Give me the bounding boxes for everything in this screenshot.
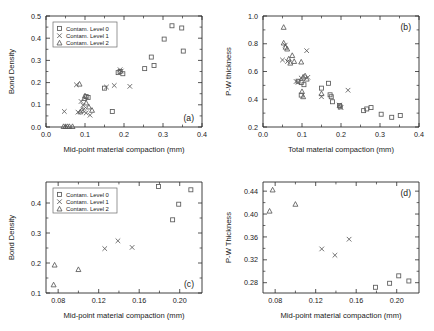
- x-tick-label: 0.0: [258, 130, 268, 139]
- data-point-open-triangle: [51, 282, 56, 287]
- y-axis-ticks: 0.20.40.60.81.0: [248, 12, 419, 132]
- series-1: [319, 237, 351, 258]
- data-point-open-square: [156, 185, 160, 189]
- x-tick-label: 0.16: [349, 296, 363, 305]
- data-point-open-square: [143, 67, 147, 71]
- y-axis-title: P-W Thickness: [224, 212, 233, 263]
- data-point-open-triangle: [84, 100, 89, 105]
- x-tick-label: 0.20: [390, 296, 404, 305]
- data-point-open-square: [149, 55, 153, 59]
- series-2: [61, 81, 94, 128]
- data-point-open-square: [171, 218, 175, 222]
- data-point-open-square: [181, 49, 185, 53]
- y-tick-label: 0.3: [31, 56, 41, 65]
- axes-frame: [263, 182, 419, 293]
- x-tick-label: 0.1: [297, 130, 307, 139]
- x-axis-ticks: 0.080.120.160.20: [268, 182, 404, 305]
- data-point-cross-x: [346, 88, 351, 93]
- panel-c: 0.080.120.160.200.10.20.30.4Mid-point ma…: [0, 166, 217, 331]
- data-point-open-square: [320, 86, 324, 90]
- data-point-open-square: [58, 26, 62, 30]
- x-tick-label: 0.4: [414, 130, 424, 139]
- data-point-open-triangle: [319, 91, 324, 96]
- plot-c: 0.080.120.160.200.10.20.30.4Mid-point ma…: [0, 166, 217, 331]
- data-point-cross-x: [57, 199, 62, 204]
- data-point-cross-x: [304, 48, 309, 53]
- x-tick-label: 0.08: [268, 296, 282, 305]
- panel-d: 0.080.120.160.200.280.320.360.400.44Mid-…: [217, 166, 434, 331]
- y-tick-label: 0.44: [244, 187, 258, 196]
- legend: Contam. Level 0Contam. Level 1Contam. Le…: [53, 188, 117, 213]
- legend-label-1: Contam. Level 1: [66, 33, 109, 39]
- x-axis-title: Total material compaction (mm): [288, 145, 394, 154]
- y-tick-label: 0.4: [31, 199, 41, 208]
- x-axis-title: Mid-point material compaction (mm): [63, 145, 185, 154]
- series-0: [296, 79, 402, 119]
- x-tick-label: 0.2: [119, 130, 129, 139]
- data-point-cross-x: [347, 237, 352, 242]
- data-point-open-triangle: [299, 59, 304, 64]
- data-point-open-square: [379, 112, 383, 116]
- data-point-open-square: [369, 106, 373, 110]
- data-point-open-square: [180, 26, 184, 30]
- figure-container: 0.00.10.20.30.40.00.10.20.30.40.5Mid-poi…: [0, 0, 434, 331]
- data-point-open-square: [58, 192, 62, 196]
- y-tick-label: 0.28: [244, 278, 258, 287]
- x-axis-title: Mid-point material compaction (mm): [280, 311, 402, 320]
- data-point-open-square: [407, 279, 411, 283]
- y-tick-label: 0.4: [31, 34, 41, 43]
- series-2: [51, 262, 81, 286]
- data-point-open-square: [177, 202, 181, 206]
- data-point-open-triangle: [285, 46, 290, 51]
- y-axis-title: Bond Density: [7, 49, 16, 94]
- data-point-open-square: [398, 113, 402, 117]
- plot-a: 0.00.10.20.30.40.00.10.20.30.40.5Mid-poi…: [0, 0, 217, 165]
- y-tick-label: 0.1: [31, 100, 41, 109]
- data-point-open-triangle: [57, 40, 62, 45]
- y-axis-title: P-W thickness: [224, 47, 233, 96]
- x-axis-ticks: 0.00.10.20.30.4: [258, 16, 424, 139]
- x-tick-label: 0.0: [41, 130, 51, 139]
- data-point-open-square: [390, 115, 394, 119]
- x-tick-label: 0.1: [80, 130, 90, 139]
- series-0: [156, 185, 192, 222]
- x-tick-label: 0.4: [197, 130, 207, 139]
- panel-tag: (d): [400, 188, 411, 198]
- x-axis-title: Mid-point material compaction (mm): [63, 311, 185, 320]
- data-point-cross-x: [130, 245, 135, 250]
- x-tick-label: 0.16: [132, 296, 146, 305]
- legend-label-2: Contam. Level 2: [66, 40, 109, 46]
- legend-label-1: Contam. Level 1: [66, 199, 109, 205]
- x-tick-label: 0.3: [158, 130, 168, 139]
- panel-tag: (b): [400, 22, 411, 32]
- legend-label-0: Contam. Level 0: [66, 26, 110, 32]
- data-point-cross-x: [280, 58, 285, 63]
- legend-label-2: Contam. Level 2: [66, 206, 109, 212]
- y-tick-label: 0.36: [244, 233, 258, 242]
- data-point-open-square: [388, 281, 392, 285]
- series-1: [62, 67, 132, 117]
- y-tick-label: 1.0: [248, 12, 258, 21]
- data-point-open-square: [170, 24, 174, 28]
- y-tick-label: 0.3: [31, 229, 41, 238]
- plot-d: 0.080.120.160.200.280.320.360.400.44Mid-…: [217, 166, 434, 331]
- panel-b: 0.00.10.20.30.40.20.40.60.81.0Total mate…: [217, 0, 434, 165]
- data-point-cross-x: [116, 239, 121, 244]
- y-tick-label: 0.6: [248, 67, 258, 76]
- plot-b: 0.00.10.20.30.40.20.40.60.81.0Total mate…: [217, 0, 434, 165]
- data-point-cross-x: [319, 247, 324, 252]
- y-tick-label: 0.2: [31, 259, 41, 268]
- series-2: [267, 187, 298, 213]
- data-point-cross-x: [319, 94, 324, 99]
- data-point-cross-x: [57, 33, 62, 38]
- data-point-open-square: [189, 188, 193, 192]
- data-point-open-triangle: [76, 267, 81, 272]
- y-axis-title: Bond Density: [7, 215, 16, 260]
- data-point-cross-x: [128, 84, 133, 89]
- data-point-open-triangle: [281, 25, 286, 30]
- y-tick-label: 0.2: [248, 123, 258, 132]
- panel-a: 0.00.10.20.30.40.00.10.20.30.40.5Mid-poi…: [0, 0, 217, 165]
- y-tick-label: 0.2: [31, 78, 41, 87]
- data-point-open-square: [110, 109, 114, 113]
- data-point-open-triangle: [267, 208, 272, 213]
